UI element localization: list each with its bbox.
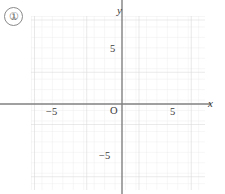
grid-svg <box>31 16 205 190</box>
coordinate-plane-figure: ① y x O −5 5 5 −5 <box>0 0 225 194</box>
x-tick-label-positive-5: 5 <box>170 106 175 117</box>
origin-label: O <box>110 105 118 116</box>
plot-area <box>31 16 205 190</box>
problem-number-marker: ① <box>4 7 23 26</box>
x-axis-label: x <box>208 97 213 109</box>
y-tick-label-negative-5: −5 <box>99 150 110 161</box>
y-tick-label-positive-5: 5 <box>110 43 115 54</box>
x-tick-label-negative-5: −5 <box>46 106 57 117</box>
grid-major <box>31 16 205 190</box>
y-axis-label: y <box>117 4 122 16</box>
